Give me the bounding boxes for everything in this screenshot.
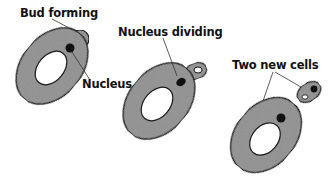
label-bud-forming: Bud forming bbox=[20, 6, 98, 20]
bud-vacuole bbox=[194, 67, 202, 73]
label-two-new-cells: Two new cells bbox=[232, 58, 318, 72]
daughter-pointer-line bbox=[275, 72, 301, 87]
label-nucleus-dividing: Nucleus dividing bbox=[118, 25, 222, 39]
daughter-nucleus bbox=[311, 86, 318, 93]
nucleus-dot bbox=[66, 44, 75, 53]
stage-2-cell bbox=[108, 38, 209, 153]
stage-1-cell bbox=[1, 14, 102, 118]
daughter-vacuole bbox=[302, 95, 308, 99]
mother-pointer-line bbox=[263, 72, 273, 101]
stage-3-cells bbox=[216, 72, 325, 180]
yeast-budding-diagram: Bud forming Nucleus Nucleus dividing Two… bbox=[0, 0, 333, 180]
mother-nucleus bbox=[277, 114, 286, 123]
label-nucleus: Nucleus bbox=[82, 77, 132, 91]
daughter-cell bbox=[293, 77, 325, 107]
